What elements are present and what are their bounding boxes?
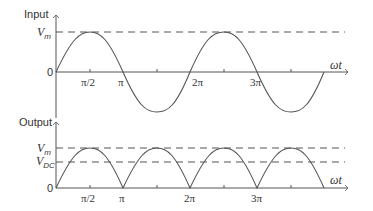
- input-title: Input: [24, 8, 48, 20]
- output-tick-3pi: 3π: [251, 192, 263, 204]
- input-tick-3pi: 3π: [250, 76, 262, 88]
- rectifier-waveform-diagram: Input Vm 0 ωt π/2 π 2π 3π Output Vm VDC …: [0, 0, 373, 211]
- output-tick-pi: π: [119, 192, 125, 204]
- input-panel: Input Vm 0 ωt π/2 π 2π 3π: [24, 8, 348, 118]
- input-x-label: ωt: [330, 58, 342, 72]
- output-x-label: ωt: [330, 173, 342, 187]
- output-rectified-wave: [56, 148, 324, 188]
- output-zero-label: 0: [47, 182, 53, 194]
- output-tick-2pi: 2π: [184, 192, 196, 204]
- input-vm-label: Vm: [37, 25, 51, 41]
- input-tick-pi-half: π/2: [81, 76, 95, 88]
- output-panel: Output Vm VDC 0 ωt π/2 π 2π 3π: [19, 116, 348, 204]
- output-tick-pi-half: π/2: [81, 192, 95, 204]
- output-title: Output: [19, 116, 52, 128]
- input-tick-2pi: 2π: [192, 76, 204, 88]
- input-tick-pi: π: [118, 76, 124, 88]
- input-zero-label: 0: [47, 66, 53, 78]
